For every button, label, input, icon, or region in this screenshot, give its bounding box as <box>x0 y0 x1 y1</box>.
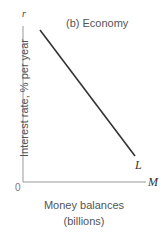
y-axis-symbol: r <box>22 8 26 19</box>
x-axis-symbol: M <box>148 175 158 190</box>
chart-title: (b) Economy <box>66 17 128 29</box>
x-axis-label: Money balances <box>0 199 168 211</box>
origin-label: 0 <box>15 182 21 193</box>
x-axis-unit: (billions) <box>0 215 168 227</box>
curve-label: L <box>135 158 142 173</box>
demand-curve-L <box>40 30 135 156</box>
y-axis-label: Interest rate, % per year <box>18 18 30 178</box>
